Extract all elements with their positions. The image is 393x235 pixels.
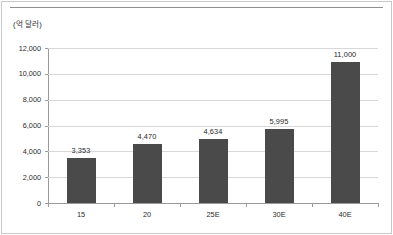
x-axis-tick-label: 25E bbox=[188, 210, 238, 219]
y-axis-tick-label: 0 bbox=[0, 199, 41, 208]
top-divider-rule bbox=[10, 7, 383, 8]
gridline bbox=[48, 100, 378, 101]
x-axis-tick-label: 40E bbox=[320, 210, 370, 219]
x-axis-line bbox=[48, 203, 379, 204]
chart-figure: (억 달러) 02,0004,0006,0008,00010,00012,000… bbox=[0, 0, 393, 235]
y-axis-tick-label: 12,000 bbox=[0, 44, 41, 53]
bar[interactable] bbox=[265, 129, 294, 203]
x-axis-tick-label: 30E bbox=[254, 210, 304, 219]
x-axis-tick-mark bbox=[180, 203, 181, 207]
y-axis-tick-label: 2,000 bbox=[0, 173, 41, 182]
x-axis-tick-mark bbox=[312, 203, 313, 207]
y-axis-tick-label: 8,000 bbox=[0, 95, 41, 104]
x-axis-tick-label: 15 bbox=[56, 210, 106, 219]
y-axis-tick-mark bbox=[45, 74, 48, 75]
y-axis-tick-label: 6,000 bbox=[0, 121, 41, 130]
x-axis-tick-mark bbox=[378, 203, 379, 207]
bar-value-label: 5,995 bbox=[249, 117, 309, 126]
y-axis-tick-label: 10,000 bbox=[0, 69, 41, 78]
plot-area bbox=[48, 48, 378, 203]
bar[interactable] bbox=[331, 62, 360, 203]
y-axis-tick-label: 4,000 bbox=[0, 147, 41, 156]
x-axis-tick-mark bbox=[114, 203, 115, 207]
gridline bbox=[48, 48, 378, 49]
y-axis-tick-mark bbox=[45, 126, 48, 127]
x-axis-tick-mark bbox=[246, 203, 247, 207]
x-axis-tick-label: 20 bbox=[122, 210, 172, 219]
bar[interactable] bbox=[199, 139, 228, 203]
bar-value-label: 4,470 bbox=[117, 132, 177, 141]
y-axis-tick-mark bbox=[45, 100, 48, 101]
bar-value-label: 3,353 bbox=[51, 146, 111, 155]
bar-value-label: 4,634 bbox=[183, 127, 243, 136]
bar[interactable] bbox=[67, 158, 96, 203]
y-axis-tick-mark bbox=[45, 177, 48, 178]
x-axis-origin-tick-mark bbox=[48, 203, 49, 207]
y-axis-tick-mark bbox=[45, 48, 48, 49]
gridline bbox=[48, 74, 378, 75]
bar-value-label: 11,000 bbox=[315, 50, 375, 59]
bar[interactable] bbox=[133, 144, 162, 203]
y-axis-tick-mark bbox=[45, 151, 48, 152]
y-axis-unit-label: (억 달러) bbox=[13, 18, 42, 29]
